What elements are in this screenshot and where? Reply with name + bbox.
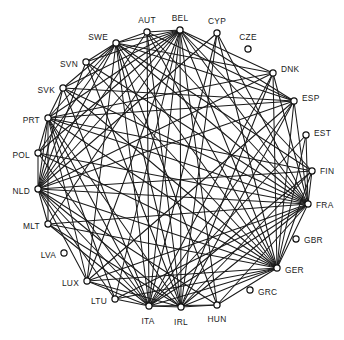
graph-node-svk[interactable] xyxy=(60,85,66,91)
graph-node-label-hun: HUN xyxy=(208,314,227,324)
graph-node-cze[interactable] xyxy=(245,46,251,52)
graph-node-aut[interactable] xyxy=(144,29,150,35)
graph-node-dnk[interactable] xyxy=(270,70,276,76)
graph-node-svn[interactable] xyxy=(83,59,89,65)
graph-node-label-bel: BEL xyxy=(172,13,189,23)
graph-node-lux[interactable] xyxy=(84,278,90,284)
graph-node-grc[interactable] xyxy=(247,287,253,293)
graph-node-label-pol: POL xyxy=(12,150,30,160)
graph-node-lva[interactable] xyxy=(61,250,67,256)
graph-node-label-ltu: LTU xyxy=(91,296,107,306)
graph-node-cyp[interactable] xyxy=(214,30,220,36)
graph-node-label-svk: SVK xyxy=(37,85,55,95)
graph-node-label-fin: FIN xyxy=(320,166,334,176)
graph-node-label-ger: GER xyxy=(285,265,304,275)
graph-node-label-lva: LVA xyxy=(41,250,56,260)
graph-node-label-prt: PRT xyxy=(23,115,40,125)
graph-node-nld[interactable] xyxy=(35,186,41,192)
graph-node-fra[interactable] xyxy=(305,201,311,207)
graph-node-pol[interactable] xyxy=(35,150,41,156)
graph-node-bel[interactable] xyxy=(177,27,183,33)
graph-edge xyxy=(48,101,294,118)
graph-edge xyxy=(38,62,86,189)
graph-node-label-ita: ITA xyxy=(141,316,154,326)
graph-edge xyxy=(38,189,149,306)
graph-node-label-swe: SWE xyxy=(88,32,108,42)
graph-node-label-dnk: DNK xyxy=(281,64,300,74)
network-graph-container: AUTBELCYPCZEDNKESPESTFINFRAGBRGERGRCHUNI… xyxy=(0,0,344,340)
graph-node-label-nld: NLD xyxy=(12,186,30,196)
graph-edge xyxy=(38,101,294,189)
graph-node-label-mlt: MLT xyxy=(23,221,40,231)
graph-node-label-lux: LUX xyxy=(62,278,79,288)
graph-edge xyxy=(180,30,181,307)
graph-node-gbr[interactable] xyxy=(293,236,299,242)
graph-node-hun[interactable] xyxy=(214,302,220,308)
graph-node-label-est: EST xyxy=(314,128,331,138)
network-graph-canvas: AUTBELCYPCZEDNKESPESTFINFRAGBRGERGRCHUNI… xyxy=(0,0,344,340)
graph-edge xyxy=(63,88,308,204)
graph-edge xyxy=(181,101,294,307)
graph-node-label-fra: FRA xyxy=(316,200,334,210)
graph-node-label-cyp: CYP xyxy=(208,16,226,26)
graph-node-irl[interactable] xyxy=(178,304,184,310)
graph-node-ltu[interactable] xyxy=(112,296,118,302)
graph-node-est[interactable] xyxy=(303,132,309,138)
graph-node-ita[interactable] xyxy=(146,303,152,309)
graph-node-prt[interactable] xyxy=(45,115,51,121)
graph-node-ger[interactable] xyxy=(274,265,280,271)
graph-node-label-svn: SVN xyxy=(60,59,78,69)
graph-edge xyxy=(181,204,308,307)
graph-node-mlt[interactable] xyxy=(45,221,51,227)
graph-node-swe[interactable] xyxy=(113,40,119,46)
graph-node-label-aut: AUT xyxy=(138,15,156,25)
graph-node-esp[interactable] xyxy=(291,98,297,104)
graph-node-label-grc: GRC xyxy=(258,287,277,297)
graph-node-label-cze: CZE xyxy=(239,32,257,42)
graph-edge xyxy=(180,30,277,268)
graph-node-label-esp: ESP xyxy=(302,93,320,103)
graph-node-fin[interactable] xyxy=(309,168,315,174)
graph-node-label-irl: IRL xyxy=(174,317,188,327)
graph-node-label-gbr: GBR xyxy=(304,235,323,245)
